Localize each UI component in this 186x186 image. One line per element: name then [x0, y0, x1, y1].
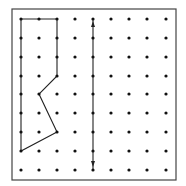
- grid-dot: [91, 111, 94, 114]
- grid-dot: [55, 168, 58, 171]
- grid-dot: [37, 55, 40, 58]
- grid-dot: [73, 92, 76, 95]
- grid-dot: [37, 36, 40, 39]
- grid-dot: [55, 17, 58, 20]
- grid-dot: [91, 55, 94, 58]
- grid-dot: [109, 130, 112, 133]
- grid-dot: [37, 74, 40, 77]
- grid-dot: [164, 74, 167, 77]
- grid-dot: [19, 149, 22, 152]
- grid-dot: [91, 92, 94, 95]
- grid-dot: [73, 111, 76, 114]
- grid-dot: [55, 74, 58, 77]
- geoboard-diagram: [0, 0, 186, 186]
- grid-dot: [73, 36, 76, 39]
- arrowhead-down-icon: [91, 161, 95, 167]
- grid-dot: [127, 130, 130, 133]
- grid-dot: [19, 130, 22, 133]
- grid-dot: [91, 149, 94, 152]
- grid-dot: [55, 111, 58, 114]
- grid-dot: [164, 149, 167, 152]
- grid-dot: [164, 130, 167, 133]
- grid-dot: [109, 36, 112, 39]
- grid-dot: [37, 92, 40, 95]
- grid-dot: [145, 55, 148, 58]
- grid-dot: [109, 111, 112, 114]
- grid-dot: [37, 130, 40, 133]
- grid-dot: [73, 130, 76, 133]
- grid-dot: [145, 36, 148, 39]
- grid-dot: [127, 149, 130, 152]
- grid-dot: [164, 55, 167, 58]
- grid-dot: [127, 168, 130, 171]
- grid-dot: [19, 92, 22, 95]
- grid-dot: [19, 111, 22, 114]
- grid-dot: [73, 168, 76, 171]
- grid-dot: [145, 168, 148, 171]
- grid-dot: [109, 92, 112, 95]
- grid-dot: [164, 17, 167, 20]
- grid-dot: [127, 55, 130, 58]
- grid-dot: [145, 130, 148, 133]
- grid-dot: [73, 149, 76, 152]
- grid-dot: [127, 17, 130, 20]
- grid-dot: [55, 149, 58, 152]
- grid-dot: [19, 168, 22, 171]
- grid-dot: [73, 55, 76, 58]
- grid-dot: [37, 111, 40, 114]
- grid-dot: [55, 36, 58, 39]
- grid-dot: [91, 74, 94, 77]
- grid-dot: [109, 74, 112, 77]
- grid-dot: [37, 149, 40, 152]
- grid-dot: [164, 111, 167, 114]
- grid-dot: [145, 149, 148, 152]
- grid-dot: [127, 74, 130, 77]
- grid-dot: [73, 74, 76, 77]
- grid-dot: [37, 17, 40, 20]
- grid-dot: [145, 74, 148, 77]
- grid-dot: [127, 92, 130, 95]
- grid-dot: [164, 36, 167, 39]
- grid-dot: [19, 36, 22, 39]
- grid-dot: [145, 92, 148, 95]
- grid-dot: [127, 111, 130, 114]
- grid-dot: [91, 36, 94, 39]
- grid-dot: [91, 130, 94, 133]
- grid-dot: [19, 17, 22, 20]
- grid-dot: [164, 168, 167, 171]
- grid-dot: [127, 36, 130, 39]
- grid-dot: [164, 92, 167, 95]
- grid-dot: [55, 92, 58, 95]
- grid-dot: [145, 17, 148, 20]
- grid-dot: [55, 130, 58, 133]
- grid-dot: [73, 17, 76, 20]
- grid-dot: [145, 111, 148, 114]
- arrowhead-up-icon: [91, 21, 95, 27]
- grid-dot: [91, 168, 94, 171]
- grid-dot: [91, 17, 94, 20]
- grid-dot: [109, 168, 112, 171]
- grid-dot: [55, 55, 58, 58]
- grid-dot: [109, 17, 112, 20]
- grid-dot: [19, 74, 22, 77]
- grid-dot: [109, 55, 112, 58]
- grid-dot: [19, 55, 22, 58]
- grid-dot: [37, 168, 40, 171]
- grid-dot: [109, 149, 112, 152]
